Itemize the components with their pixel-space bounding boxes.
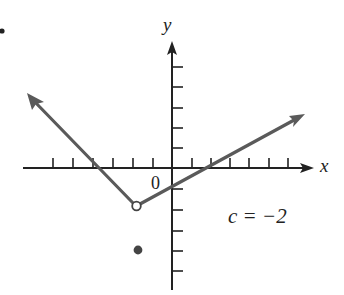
y-axis: y [161,14,183,290]
y-axis-label: y [161,14,172,35]
annotation-c-value: c = −2 [228,204,287,228]
piecewise-function-graph: x y 0 c = −2 [0,0,344,295]
open-point [132,202,141,211]
filled-point [134,246,143,255]
x-axis: x [23,155,329,176]
left-branch [27,93,133,203]
x-ticks [53,158,288,168]
list-bullet [0,28,5,33]
origin-label: 0 [151,173,160,193]
right-branch [140,114,305,204]
x-axis-label: x [319,155,329,176]
